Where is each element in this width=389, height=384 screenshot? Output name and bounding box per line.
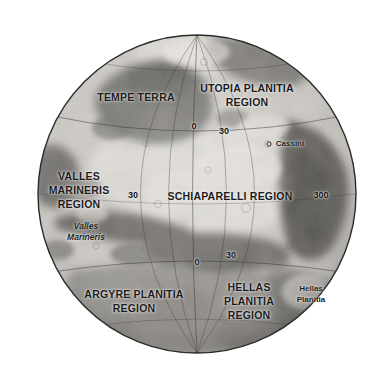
- feature-label-valles-marineris: Valles Marineris: [67, 221, 105, 243]
- feature-label-cassini: Cassini: [276, 138, 304, 149]
- graticule-tick-lon-30-south: 30: [226, 250, 236, 260]
- region-label-utopia-planitia: UTOPIA PLANITIA REGION: [200, 81, 293, 109]
- region-label-hellas-planitia: HELLAS PLANITIA REGION: [224, 280, 274, 322]
- graticule-tick-lon-0-south: 0: [194, 257, 199, 267]
- feature-label-hellas-planitia: Hellas Planitia: [297, 283, 325, 305]
- graticule-tick-lon-0-north: 0: [191, 121, 196, 131]
- region-label-tempe-terra: TEMPE TERRA: [97, 90, 174, 104]
- mars-map-stage: TEMPE TERRA UTOPIA PLANITIA REGION VALLE…: [0, 0, 389, 384]
- region-label-argyre-planitia: ARGYRE PLANITIA REGION: [84, 287, 183, 315]
- graticule-tick-lon-300-east: 300: [313, 190, 328, 200]
- graticule-tick-lon-30-west: 30: [128, 190, 138, 200]
- region-label-schiaparelli: SCHIAPARELLI REGION: [168, 189, 293, 203]
- region-label-valles-marineris: VALLES MARINERIS REGION: [49, 169, 110, 211]
- cassini-crater-marker: [267, 142, 272, 147]
- graticule-tick-lon-30-north: 30: [219, 126, 229, 136]
